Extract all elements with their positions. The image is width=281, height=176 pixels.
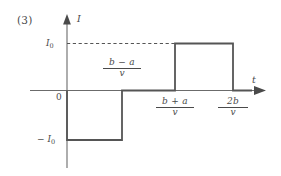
i0-tick-label: I0	[46, 38, 54, 50]
tick-label-b-plus-a-over-v-numerator: b + a	[156, 97, 194, 106]
neg-i0-tick-label-subscript: 0	[51, 138, 55, 146]
y-axis-label: I	[77, 13, 81, 24]
tick-label-b-plus-a-over-v: b + a v	[156, 97, 194, 118]
x-axis-label: t	[252, 74, 256, 85]
neg-i0-tick-label-text: − I	[37, 134, 51, 144]
waveform-plot	[0, 0, 281, 176]
figure-container: (3) I t 0 I0 − I0 b − a v b + a v 2b	[0, 0, 281, 176]
tick-label-two-b-over-v: 2b v	[218, 97, 248, 118]
current-waveform	[67, 44, 252, 141]
y-axis-arrowhead	[63, 14, 71, 25]
tick-label-b-minus-a-over-v-denominator: v	[103, 69, 141, 78]
tick-label-two-b-over-v-denominator: v	[218, 108, 248, 117]
x-axis-arrowhead	[254, 86, 266, 95]
neg-i0-tick-label: − I0	[37, 134, 55, 146]
tick-label-b-plus-a-over-v-denominator: v	[156, 108, 194, 117]
tick-label-b-minus-a-over-v-numerator: b − a	[103, 58, 141, 67]
tick-label-two-b-over-v-numerator: 2b	[218, 97, 248, 106]
origin-label: 0	[56, 92, 62, 102]
i0-tick-label-subscript: 0	[50, 42, 54, 50]
tick-label-b-minus-a-over-v: b − a v	[103, 58, 141, 79]
